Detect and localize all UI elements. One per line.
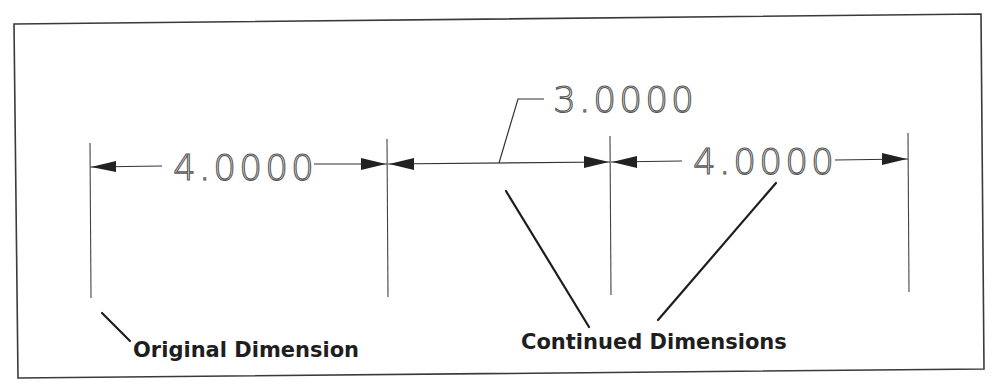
dimension-original: 4.0000 <box>90 147 387 188</box>
dimension-label-continued-1: 3.0000 <box>553 79 697 120</box>
dimension-text-leader <box>499 99 544 163</box>
dimension-continued-1: 3.0000 <box>388 79 697 170</box>
arrowhead-icon <box>584 156 609 168</box>
callout-continued-dimensions: Continued Dimensions <box>521 330 787 354</box>
leader-original <box>102 313 130 341</box>
extension-line-1 <box>90 143 91 298</box>
dimension-diagram: 4.0000 3.0000 4.0000 Original Dimension … <box>0 0 996 388</box>
arrowhead-icon <box>612 156 637 168</box>
dimension-label-continued-2: 4.0000 <box>693 141 837 182</box>
leader-continued-left <box>506 191 589 327</box>
callout-leaders <box>102 183 776 341</box>
extension-line-3 <box>610 136 611 295</box>
figure-frame <box>14 14 984 378</box>
arrowhead-icon <box>361 158 386 170</box>
extension-line-4 <box>908 133 909 292</box>
dimension-label-original: 4.0000 <box>173 147 317 188</box>
arrowhead-icon <box>882 153 907 165</box>
leader-continued-right <box>658 183 776 320</box>
dimension-continued-2: 4.0000 <box>611 141 908 182</box>
callout-original-dimension: Original Dimension <box>133 338 359 362</box>
arrowhead-icon <box>389 158 414 170</box>
arrowhead-icon <box>91 161 116 172</box>
extension-line-2 <box>387 139 388 297</box>
